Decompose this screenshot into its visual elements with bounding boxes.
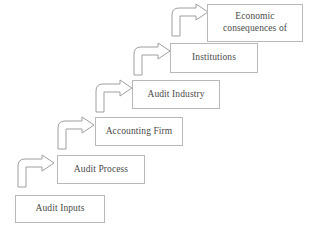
step-label: Audit Inputs [20, 203, 100, 215]
step-box-audit-process[interactable]: Audit Process [57, 155, 145, 184]
step-box-audit-industry[interactable]: Audit Industry [132, 80, 220, 109]
step-box-economic-consequences[interactable]: Economic consequences of [207, 4, 303, 42]
elbow-arrow-to-audit-process [16, 157, 56, 187]
step-label: Accounting Firm [100, 126, 178, 138]
step-box-accounting-firm[interactable]: Accounting Firm [95, 117, 183, 146]
elbow-arrow-to-economic-consequences [170, 6, 210, 36]
elbow-arrow-to-accounting-firm [56, 119, 96, 149]
step-label: Audit Process [62, 164, 140, 176]
step-label: Institutions [175, 52, 253, 64]
step-label: Audit Industry [137, 89, 215, 101]
elbow-arrow-to-institutions [132, 45, 172, 75]
step-box-audit-inputs[interactable]: Audit Inputs [15, 195, 105, 223]
diagram-canvas: Audit Inputs Audit Process Accounting Fi… [0, 0, 310, 234]
step-label: Economic consequences of [212, 11, 298, 35]
elbow-arrow-to-audit-industry [94, 82, 134, 112]
step-box-institutions[interactable]: Institutions [170, 43, 258, 73]
